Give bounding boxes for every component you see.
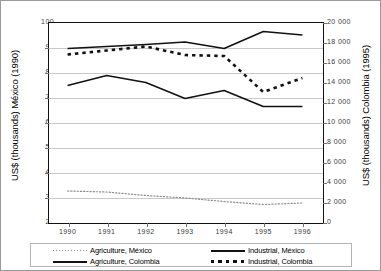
y-tick-right [323, 163, 327, 164]
x-tick-label: 1996 [282, 228, 322, 235]
y-tick-right [323, 43, 327, 44]
x-tick [147, 223, 148, 227]
y-tick-right [323, 183, 327, 184]
y-tick-label-right: 18 000 [327, 38, 371, 45]
x-tick-label: 1993 [165, 228, 205, 235]
y-tick-label-right: 16 000 [327, 58, 371, 65]
y-tick-right [323, 103, 327, 104]
x-tick [69, 223, 70, 227]
y-tick-label-right: 0 [327, 218, 371, 225]
series-line [68, 191, 303, 205]
x-tick [303, 223, 304, 227]
x-tick [108, 223, 109, 227]
legend-column-left: Agriculture, MéxicoAgriculture, Colombia [53, 245, 160, 267]
y-tick-label-right: 14 000 [327, 78, 371, 85]
legend-label: Industrial, México [248, 246, 305, 255]
y-tick-right [323, 203, 327, 204]
y-tick-label-right: 2 000 [327, 198, 371, 205]
series-lines [48, 22, 322, 222]
x-tick [264, 223, 265, 227]
legend-item: Industrial, México [211, 245, 312, 256]
y-tick-label-right: 6 000 [327, 158, 371, 165]
y-tick-right [323, 63, 327, 64]
legend-item: Agriculture, Colombia [53, 256, 160, 267]
x-tick-label: 1991 [87, 228, 127, 235]
legend-label: Industrial, Colombia [248, 257, 312, 266]
x-tick-label: 1992 [126, 228, 166, 235]
y-tick-right [323, 143, 327, 144]
y-tick-right [323, 83, 327, 84]
legend-swatch-dashed-icon [211, 257, 245, 266]
series-line [68, 32, 303, 49]
y-tick-label-right: 20 000 [327, 18, 371, 25]
legend-label: Agriculture, México [90, 246, 152, 255]
y-tick-label-right: 12 000 [327, 98, 371, 105]
y-tick-label-right: 8 000 [327, 138, 371, 145]
series-line [68, 47, 303, 93]
chart-legend: Agriculture, MéxicoAgriculture, Colombia… [30, 243, 352, 267]
x-tick-label: 1994 [204, 228, 244, 235]
legend-item: Industrial, Colombia [211, 256, 312, 267]
x-tick-label: 1995 [243, 228, 283, 235]
x-tick [186, 223, 187, 227]
legend-swatch-solid-icon [53, 257, 87, 266]
legend-swatch-solid-icon [211, 246, 245, 255]
x-tick [225, 223, 226, 227]
y-tick-right [323, 123, 327, 124]
y-tick-label-right: 10 000 [327, 118, 371, 125]
y-tick-right [323, 223, 327, 224]
x-tick-label: 1990 [48, 228, 88, 235]
right-axis-title: US$ (thousands) Colombia (1995) [360, 16, 371, 216]
legend-swatch-dotted-icon [53, 246, 87, 255]
legend-column-right: Industrial, MéxicoIndustrial, Colombia [211, 245, 312, 267]
y-tick-label-right: 4 000 [327, 178, 371, 185]
legend-label: Agriculture, Colombia [90, 257, 160, 266]
y-tick-right [323, 23, 327, 24]
legend-item: Agriculture, México [53, 245, 160, 256]
chart-container: US$ (thousands) México (1990) US$ (thous… [0, 0, 381, 271]
